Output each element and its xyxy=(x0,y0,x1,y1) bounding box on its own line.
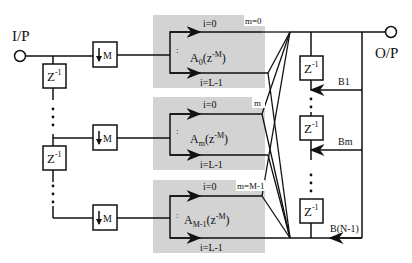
coeff-Bm: Bm xyxy=(338,136,353,147)
input-node xyxy=(15,51,26,62)
crossing-connections xyxy=(262,32,290,238)
filter-m-bottom-label: i=L-1 xyxy=(200,159,223,170)
filter-0-top-label: i=0 xyxy=(203,18,216,29)
decimator-m: M xyxy=(93,125,117,150)
filter-M-1-bottom-label: i=L-1 xyxy=(200,242,223,253)
vertical-dots-4 xyxy=(310,174,313,193)
svg-text::: : xyxy=(176,45,179,55)
vertical-dots-2 xyxy=(52,185,55,204)
filter-m-branch-label: m xyxy=(254,98,261,108)
input-label: I/P xyxy=(12,28,30,44)
filter-m-top-label: i=0 xyxy=(203,99,216,110)
svg-text:M: M xyxy=(103,213,112,224)
vertical-dots-3 xyxy=(310,98,313,109)
svg-text::: : xyxy=(176,126,179,136)
coeff-B1: B1 xyxy=(338,76,350,87)
output-node xyxy=(386,27,397,38)
svg-text::: : xyxy=(176,210,179,220)
decimator-0: M xyxy=(93,42,117,67)
output-label: O/P xyxy=(375,45,398,61)
polyphase-filter-diagram: I/P Z-1 Z-1 M M M xyxy=(0,0,412,263)
coeff-BN-1: B(N-1) xyxy=(330,223,359,235)
vertical-dots-1 xyxy=(52,108,55,127)
svg-text:M: M xyxy=(103,133,112,144)
filter-0-branch-label: m=0 xyxy=(245,16,262,26)
filter-0-bottom-label: i=L-1 xyxy=(200,77,223,88)
svg-text:M: M xyxy=(103,50,112,61)
filter-M-1-branch-label: m=M-1 xyxy=(237,181,265,191)
filter-M-1-top-label: i=0 xyxy=(203,181,216,192)
decimator-M-1: M xyxy=(93,205,117,230)
